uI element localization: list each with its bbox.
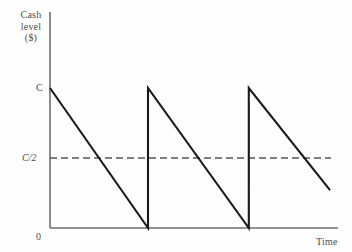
y-axis-title-line-2: level [14, 21, 48, 33]
y-tick-label-c: C [36, 82, 43, 93]
y-axis-title-line-1: Cash [14, 9, 48, 21]
y-axis-title: Cash level ($) [14, 9, 48, 44]
origin-tick-label-zero: 0 [36, 231, 41, 242]
cash-level-chart: Cash level ($) Time C C/2 0 [0, 0, 352, 252]
chart-plot-area [0, 0, 352, 252]
y-tick-label-c-half: C/2 [22, 152, 36, 163]
y-axis-title-line-3: ($) [14, 32, 48, 44]
x-axis-title: Time [316, 236, 338, 248]
